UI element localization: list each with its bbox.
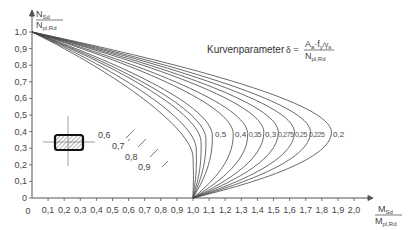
axes — [30, 10, 374, 201]
interaction-curves — [32, 32, 331, 198]
y-tick-label: 0,6 — [14, 93, 27, 103]
y-tick-label: 0,4 — [14, 127, 27, 137]
x-axis-ticks: 00,10,20,30,40,50,60,70,80,91,01,11,21,3… — [25, 198, 360, 216]
curve-labels-right: 0,5 0,4 0,35 0,3 0,275 0,25 0,225 0,2 — [215, 130, 345, 139]
y-tick-label: 0 — [22, 193, 27, 203]
formula-delta: δ = — [286, 44, 299, 55]
formula-denominator: Npl,Rd — [305, 51, 326, 62]
x-tick-label: 0,6 — [122, 205, 135, 215]
curve-0-8 — [32, 32, 196, 198]
x-tick-label: 0,7 — [138, 205, 151, 215]
curve-label-0-5: 0,5 — [215, 130, 227, 139]
curve-label-0-4: 0,4 — [235, 130, 247, 139]
curve-0-35 — [32, 32, 248, 198]
y-tick-label: 0,8 — [14, 60, 27, 70]
y-tick-label: 0,2 — [14, 160, 27, 170]
x-tick-label: 1,3 — [235, 205, 248, 215]
x-axis-label: MSd Mpl,Rd — [375, 204, 402, 227]
x-tick-label: 0,2 — [58, 205, 71, 215]
x-tick-label: 0,3 — [74, 205, 87, 215]
x-tick-label: 0,1 — [42, 205, 55, 215]
curve-label-0-225: 0,225 — [309, 131, 325, 138]
curve-label-0-6: 0,6 — [98, 130, 111, 140]
x-tick-label: 1,1 — [203, 205, 216, 215]
x-tick-label: 0,5 — [106, 205, 119, 215]
x-tick-label: 1,8 — [316, 205, 329, 215]
x-tick-label: 0,9 — [171, 205, 184, 215]
curve-0-2 — [32, 32, 331, 198]
curve-0-275 — [32, 32, 278, 198]
x-tick-label: 1,7 — [299, 205, 312, 215]
curve-label-0-2: 0,2 — [333, 130, 345, 139]
svg-text:NSd: NSd — [36, 9, 50, 20]
x-tick-label: 1,5 — [267, 205, 280, 215]
curve-label-0-35: 0,35 — [249, 131, 262, 138]
y-tick-label: 0,1 — [14, 176, 27, 186]
curve-label-0-275: 0,275 — [278, 131, 294, 138]
y-axis-arrow-icon — [30, 10, 35, 16]
curve-0-6 — [32, 32, 206, 198]
x-tick-label: 0,8 — [155, 205, 168, 215]
curve-label-0-3: 0,3 — [265, 130, 277, 139]
curve-0-3 — [32, 32, 264, 198]
curve-label-0-8: 0,8 — [125, 152, 138, 162]
y-axis-ticks: 00,10,20,30,40,50,60,70,80,91,0 — [14, 27, 32, 203]
x-axis-arrow-icon — [368, 196, 373, 201]
curve-label-0-9: 0,9 — [138, 162, 151, 172]
curve-parameter-annotation: Kurvenparameter δ = Aa·fy/γa Npl,Rd — [207, 39, 334, 62]
formula-numerator: Aa·fy/γa — [305, 39, 331, 50]
y-tick-label: 0,3 — [14, 143, 27, 153]
x-tick-label: 0 — [25, 206, 30, 216]
y-axis-label: NSd Npl,Rd — [36, 9, 63, 31]
y-tick-label: 0,5 — [14, 110, 27, 120]
cross-section-icon — [43, 116, 95, 166]
annotation-text: Kurvenparameter — [207, 44, 285, 55]
x-tick-label: 1,2 — [219, 205, 232, 215]
x-tick-label: 2,0 — [348, 205, 361, 215]
x-tick-label: 0,4 — [90, 205, 103, 215]
x-tick-label: 1,6 — [283, 205, 296, 215]
x-tick-label: 1,4 — [251, 205, 264, 215]
x-tick-label: 1,9 — [332, 205, 345, 215]
x-tick-label: 1,0 — [187, 205, 200, 215]
y-tick-label: 0,9 — [14, 44, 27, 54]
y-tick-label: 0,7 — [14, 77, 27, 87]
interaction-diagram: 00,10,20,30,40,50,60,70,80,91,01,11,21,3… — [0, 0, 411, 230]
svg-text:Mpl,Rd: Mpl,Rd — [375, 216, 397, 227]
curve-0-225 — [32, 32, 311, 198]
curve-label-0-25: 0,25 — [295, 131, 308, 138]
curve-0-4 — [32, 32, 233, 198]
curve-label-0-7: 0,7 — [112, 141, 125, 151]
svg-text:MSd: MSd — [378, 204, 393, 215]
y-tick-label: 1,0 — [14, 27, 27, 37]
curve-0-9 — [32, 32, 193, 198]
svg-text:Npl,Rd: Npl,Rd — [36, 20, 57, 31]
